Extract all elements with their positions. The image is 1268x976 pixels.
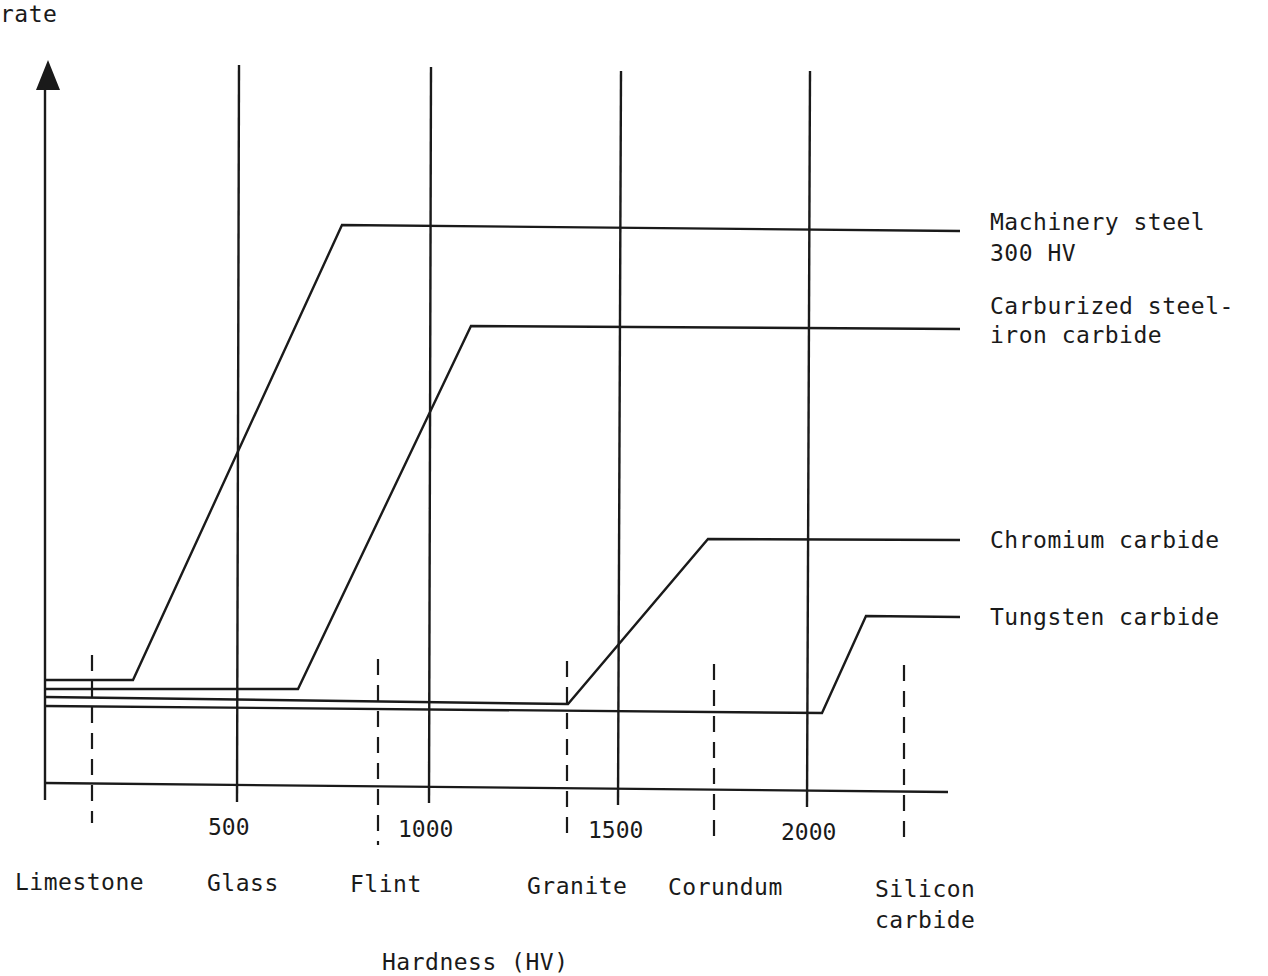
y-axis-label: rate xyxy=(0,0,57,30)
x-tick-1500: 1500 xyxy=(588,816,643,844)
gridline-500 xyxy=(237,65,239,802)
mineral-label-carbide: carbide xyxy=(875,905,975,936)
mineral-label-flint: Flint xyxy=(350,869,422,900)
mineral-label-granite: Granite xyxy=(527,871,627,902)
series-chromium-carbide xyxy=(45,539,960,704)
legend-carburized-line1: Carburized steel- xyxy=(990,291,1234,322)
legend-machinery-steel-line2: 300 HV xyxy=(990,238,1076,269)
x-tick-500: 500 xyxy=(208,813,250,841)
gridline-1000 xyxy=(429,67,431,803)
x-axis xyxy=(45,783,948,792)
mineral-label-glass: Glass xyxy=(207,868,279,899)
series-carburized-steel xyxy=(45,326,960,689)
legend-chromium-carbide: Chromium carbide xyxy=(990,525,1220,556)
x-axis-label: Hardness (HV) xyxy=(382,947,569,976)
gridline-2000 xyxy=(807,71,810,807)
mineral-label-corundum: Corundum xyxy=(668,872,783,903)
x-tick-2000: 2000 xyxy=(781,818,836,846)
series-machinery-steel xyxy=(45,225,960,680)
gridline-1500 xyxy=(618,71,621,805)
legend-machinery-steel-line1: Machinery steel xyxy=(990,207,1205,238)
legend-carburized-line2: iron carbide xyxy=(990,320,1162,351)
mineral-label-limestone: Limestone xyxy=(15,867,144,898)
mineral-label-silicon: Silicon xyxy=(875,874,975,905)
x-tick-1000: 1000 xyxy=(398,815,453,843)
legend-tungsten-carbide: Tungsten carbide xyxy=(990,602,1220,633)
y-axis-arrow-icon xyxy=(36,60,60,90)
